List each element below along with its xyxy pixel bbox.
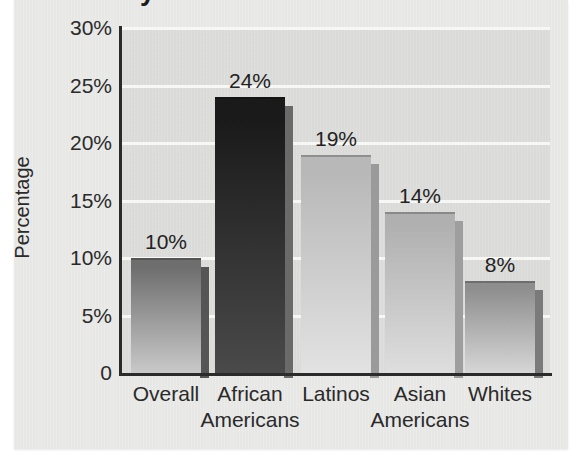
- x-tick-label-line1: Whites: [468, 382, 532, 405]
- bar-top-edge: [385, 212, 455, 214]
- bar-value-label: 14%: [399, 184, 441, 208]
- bar-side-face: [284, 106, 293, 378]
- y-tick-label: 10%: [42, 246, 112, 270]
- gridline: [122, 85, 550, 88]
- bar-front-face: [465, 281, 535, 373]
- cropped-title: Ry: [120, 0, 480, 8]
- bar-value-label: 19%: [315, 127, 357, 151]
- x-tick-label-line2: Americans: [180, 407, 320, 433]
- bar-top-edge: [465, 281, 535, 283]
- x-tick-label-line2: Americans: [350, 407, 490, 433]
- bar-side-face: [370, 164, 379, 379]
- bar-front-face: [385, 212, 455, 373]
- gridline: [122, 27, 550, 30]
- bar-top-edge: [131, 258, 201, 260]
- bar-top-edge: [301, 155, 371, 157]
- y-tick-label: 25%: [42, 74, 112, 98]
- y-tick-label: 30%: [42, 16, 112, 40]
- y-tick-label: 15%: [42, 189, 112, 213]
- bar-4[interactable]: 14%: [385, 212, 455, 373]
- bar-1[interactable]: 10%: [131, 258, 201, 373]
- bar-front-face: [215, 97, 285, 373]
- bar-side-face: [534, 290, 543, 378]
- y-tick-label: 5%: [42, 304, 112, 328]
- bar-value-label: 10%: [145, 230, 187, 254]
- cropped-title-text: Ry: [120, 0, 480, 6]
- y-axis-line: [119, 26, 122, 375]
- bar-value-label: 8%: [485, 253, 515, 277]
- bar-front-face: [301, 155, 371, 374]
- bar-3[interactable]: 19%: [301, 155, 371, 374]
- bar-2[interactable]: 24%: [215, 97, 285, 373]
- plot-area: 10%24%19%14%8%: [122, 28, 550, 373]
- bar-value-label: 24%: [229, 69, 271, 93]
- bar-front-face: [131, 258, 201, 373]
- x-axis-line: [119, 373, 552, 376]
- y-tick-label: 20%: [42, 131, 112, 155]
- bar-side-face: [200, 267, 209, 378]
- y-axis-title: Percentage: [11, 138, 34, 278]
- x-tick-label: Whites: [430, 381, 570, 407]
- bar-5[interactable]: 8%: [465, 281, 535, 373]
- chart-figure: Ry Percentage 05%10%15%20%25%30% 10%24%1…: [0, 0, 582, 469]
- bar-top-edge: [215, 97, 285, 99]
- bar-side-face: [454, 221, 463, 378]
